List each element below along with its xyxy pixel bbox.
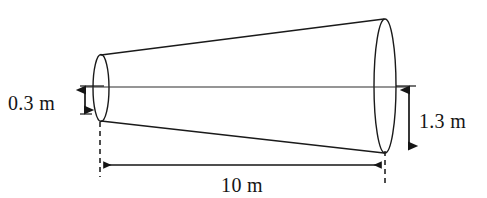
frustum-figure-canvas: 0.3 m 1.3 m 10 m bbox=[0, 0, 487, 198]
large-diameter-label: 1.3 m bbox=[419, 110, 466, 132]
small-diameter-label: 0.3 m bbox=[8, 92, 55, 114]
bottom-slant-line bbox=[101, 121, 384, 153]
small-end-ellipse bbox=[93, 55, 109, 122]
length-label: 10 m bbox=[221, 174, 263, 196]
top-slant-line bbox=[101, 19, 384, 55]
frustum-diagram: 0.3 m 1.3 m 10 m bbox=[0, 0, 487, 198]
large-end-ellipse bbox=[374, 19, 396, 153]
